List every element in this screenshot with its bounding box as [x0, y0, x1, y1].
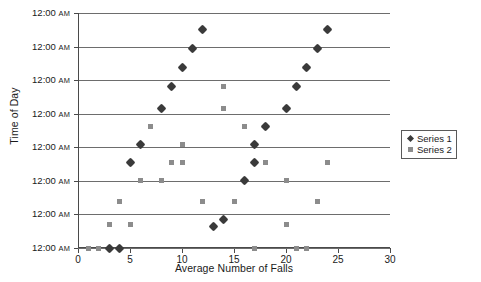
- y-axis-tick-label: 12:00 AM: [0, 75, 70, 85]
- plot-area: [78, 13, 390, 248]
- scatter-chart: Time of Day Average Number of Falls 12:0…: [0, 0, 481, 282]
- x-axis-tick-label: 5: [115, 255, 145, 265]
- x-axis-tick-label: 25: [323, 255, 353, 265]
- x-axis-tick-label: 30: [375, 255, 405, 265]
- x-axis-tick-label: 0: [63, 255, 93, 265]
- legend-item-label: Series 2: [417, 145, 452, 155]
- y-axis-tick-label: 12:00 AM: [0, 243, 70, 253]
- legend-item[interactable]: Series 1: [405, 133, 452, 144]
- y-axis-tick-label: 12:00 AM: [0, 209, 70, 219]
- y-axis-tick-label: 12:00 AM: [0, 109, 70, 119]
- y-axis-tick-label: 12:00 AM: [0, 176, 70, 186]
- y-axis-tick-label: 12:00 AM: [0, 42, 70, 52]
- diamond-marker-icon: [405, 136, 415, 141]
- chart-legend: Series 1Series 2: [401, 130, 457, 159]
- x-axis-tick-label: 20: [271, 255, 301, 265]
- plot-frame: [78, 13, 390, 248]
- legend-item-label: Series 1: [417, 134, 452, 144]
- x-axis-tick-label: 10: [167, 255, 197, 265]
- x-axis-tick-mark: [390, 248, 391, 253]
- gridline: [78, 248, 390, 249]
- x-axis-tick-label: 15: [219, 255, 249, 265]
- legend-item[interactable]: Series 2: [405, 144, 452, 155]
- y-axis-tick-label: 12:00 AM: [0, 142, 70, 152]
- square-marker-icon: [405, 147, 415, 152]
- y-axis-tick-label: 12:00 AM: [0, 8, 70, 18]
